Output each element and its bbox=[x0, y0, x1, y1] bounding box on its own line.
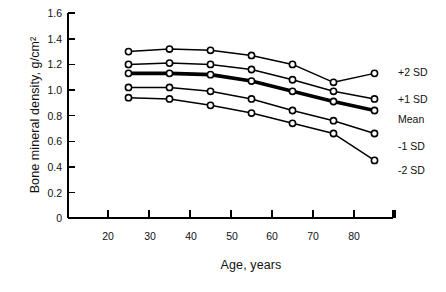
data-point-marker bbox=[248, 110, 254, 116]
data-point-marker bbox=[166, 70, 172, 76]
chart-figure: Bone mineral density, g/cm² Age, years 1… bbox=[0, 0, 446, 292]
data-point-marker bbox=[289, 120, 295, 126]
data-point-marker bbox=[371, 130, 377, 136]
data-point-marker bbox=[207, 88, 213, 94]
data-point-marker bbox=[289, 61, 295, 67]
data-point-marker bbox=[125, 49, 131, 55]
series-2sd bbox=[125, 95, 377, 164]
data-point-marker bbox=[371, 70, 377, 76]
data-point-marker bbox=[166, 84, 172, 90]
axes bbox=[68, 13, 395, 218]
data-point-marker bbox=[207, 47, 213, 53]
data-point-marker bbox=[166, 60, 172, 66]
data-point-marker bbox=[371, 96, 377, 102]
data-point-marker bbox=[330, 79, 336, 85]
data-point-marker bbox=[289, 107, 295, 113]
data-point-marker bbox=[330, 118, 336, 124]
data-point-marker bbox=[289, 88, 295, 94]
data-point-marker bbox=[248, 78, 254, 84]
data-point-marker bbox=[371, 107, 377, 113]
data-point-marker bbox=[289, 77, 295, 83]
data-point-marker bbox=[248, 66, 254, 72]
data-point-marker bbox=[166, 46, 172, 52]
data-point-marker bbox=[330, 130, 336, 136]
data-point-marker bbox=[371, 157, 377, 163]
data-point-marker bbox=[207, 72, 213, 78]
data-point-marker bbox=[248, 52, 254, 58]
data-point-marker bbox=[207, 61, 213, 67]
data-point-marker bbox=[207, 102, 213, 108]
series-line bbox=[129, 98, 375, 161]
data-point-marker bbox=[125, 84, 131, 90]
data-point-marker bbox=[330, 88, 336, 94]
data-point-marker bbox=[125, 70, 131, 76]
plot-area bbox=[0, 0, 446, 292]
data-point-marker bbox=[330, 98, 336, 104]
data-point-marker bbox=[166, 96, 172, 102]
data-point-marker bbox=[125, 95, 131, 101]
data-point-marker bbox=[248, 96, 254, 102]
data-point-marker bbox=[125, 61, 131, 67]
series-layer bbox=[125, 46, 377, 164]
